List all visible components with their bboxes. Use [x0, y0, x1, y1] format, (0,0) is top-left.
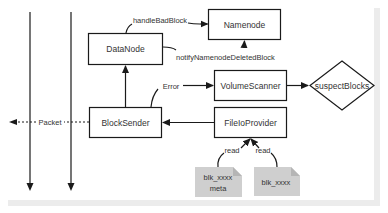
edge-read-blk: read — [251, 139, 277, 167]
edge-notify-deleted-block: notifyNamenodeDeletedBlock — [163, 41, 275, 62]
node-block-sender-label: BlockSender — [101, 118, 149, 128]
pipeline-line-1 — [27, 12, 34, 191]
node-volume-scanner-label: VolumeScanner — [220, 81, 280, 91]
edge-label-read-blk: read — [255, 146, 270, 155]
node-file-io-provider-label: FileIoProvider — [224, 118, 277, 128]
hdfs-block-flow-diagram: Packet Namenode DataNode handleBadBlock … — [0, 0, 388, 213]
edge-label-packet: Packet — [39, 118, 63, 127]
node-namenode-label: Namenode — [224, 20, 266, 30]
arrow-down-icon — [68, 183, 75, 191]
node-file-io-provider[interactable]: FileIoProvider — [215, 108, 287, 138]
edge-error: Error — [151, 82, 213, 108]
node-datanode[interactable]: DataNode — [89, 34, 163, 65]
edge-handle-bad-block: handleBadBlock — [126, 16, 208, 33]
file-blk-meta-line2: meta — [210, 184, 228, 193]
node-volume-scanner[interactable]: VolumeScanner — [215, 71, 287, 101]
node-suspect-blocks-label: suspectBlocks — [315, 81, 369, 91]
node-block-sender[interactable]: BlockSender — [90, 108, 162, 138]
file-blk-label: blk_xxxx — [262, 178, 291, 187]
node-namenode[interactable]: Namenode — [209, 10, 281, 40]
node-suspect-blocks[interactable]: suspectBlocks — [310, 61, 374, 110]
pipeline-line-2 — [68, 12, 75, 191]
file-blk[interactable]: blk_xxxx — [254, 167, 300, 196]
edge-read-meta: read — [218, 139, 250, 167]
file-fold-icon — [233, 167, 242, 176]
edge-label-error: Error — [163, 82, 180, 91]
edge-packet: Packet — [9, 118, 89, 127]
file-fold-icon — [291, 167, 300, 176]
arrow-down-icon — [27, 183, 34, 191]
edge-label-notify-deleted-block: notifyNamenodeDeletedBlock — [176, 53, 275, 62]
edge-label-read-meta: read — [224, 146, 239, 155]
arrow-left-icon — [9, 119, 17, 125]
edge-label-handle-bad-block: handleBadBlock — [133, 16, 187, 25]
file-blk-meta[interactable]: blk_xxxx meta — [195, 167, 242, 197]
node-datanode-label: DataNode — [106, 44, 145, 54]
file-blk-meta-line1: blk_xxxx — [204, 173, 233, 182]
